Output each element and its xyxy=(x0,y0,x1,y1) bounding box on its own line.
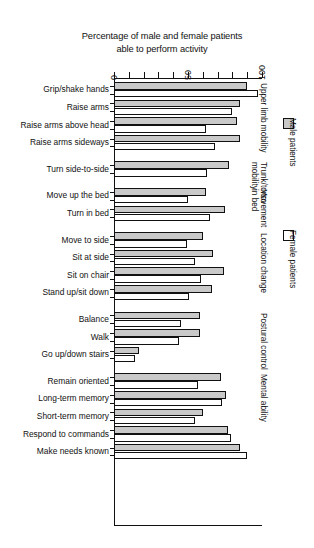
category-label: Balance xyxy=(0,315,109,324)
group-label: Location change xyxy=(259,233,268,303)
bar xyxy=(114,275,201,283)
category-label: Long-term memory xyxy=(0,394,109,403)
bar xyxy=(114,320,181,328)
group-label: Postural control xyxy=(259,313,268,366)
bar xyxy=(114,312,200,320)
bar xyxy=(114,214,210,222)
category-label: Raise arms above head xyxy=(0,121,109,130)
bar xyxy=(114,347,139,355)
bar xyxy=(114,293,189,301)
category-label: Go up/down stairs xyxy=(0,350,109,359)
category-label: Raise arms xyxy=(0,103,109,112)
bar xyxy=(114,108,232,116)
bar xyxy=(114,117,237,125)
category-label: Grip/shake hands xyxy=(0,85,109,94)
group-label: mobility xyxy=(249,162,258,180)
plot-area: 050100 xyxy=(114,78,262,526)
x-tick-70 xyxy=(218,72,219,78)
bar xyxy=(114,82,247,90)
bar xyxy=(114,452,247,460)
x-tick-40 xyxy=(173,72,174,78)
x-tick-label-50: 50 xyxy=(183,70,193,80)
bar xyxy=(114,125,206,133)
bar xyxy=(114,232,203,240)
bar xyxy=(114,355,135,363)
x-tick-label-0: 0 xyxy=(109,75,119,80)
group-label: Upper limb mobility xyxy=(259,83,268,153)
bar xyxy=(114,169,207,177)
x-tick-30 xyxy=(158,72,159,78)
bar xyxy=(114,240,187,248)
group-label: Trunk/torso xyxy=(259,162,268,180)
bar xyxy=(114,250,213,258)
category-label: Move to side xyxy=(0,236,109,245)
category-label: Turn in bed xyxy=(0,209,109,218)
x-tick-90 xyxy=(247,72,248,78)
group-label: Movement xyxy=(259,189,268,224)
bar xyxy=(114,196,188,204)
chart-title-line-1: Percentage of male and female patients xyxy=(62,30,262,43)
category-label: Move up the bed xyxy=(0,191,109,200)
category-label: Sit on chair xyxy=(0,271,109,280)
category-label: Raise arms sideways xyxy=(0,138,109,147)
bar xyxy=(114,285,212,293)
legend-label: Female patients xyxy=(288,230,297,288)
bar xyxy=(114,258,195,266)
bar xyxy=(114,188,206,196)
bar xyxy=(114,381,198,389)
x-tick-10 xyxy=(129,72,130,78)
plot-bottom-line xyxy=(114,525,262,526)
bar xyxy=(114,90,258,98)
x-tick-80 xyxy=(232,72,233,78)
x-tick-label-100: 100 xyxy=(257,65,267,80)
category-label: Make needs known xyxy=(0,447,109,456)
chart-title-line-2: able to perform activity xyxy=(62,43,262,56)
category-label: Walk xyxy=(0,333,109,342)
category-label: Respond to commands xyxy=(0,430,109,439)
bar xyxy=(114,143,215,151)
chart-title: Percentage of male and female patients a… xyxy=(62,30,262,55)
group-label: Mental ability xyxy=(259,374,268,462)
bar xyxy=(114,337,179,345)
legend-label: Male patients xyxy=(288,118,297,167)
category-label: Sit at side xyxy=(0,253,109,262)
bar xyxy=(114,417,195,425)
bar xyxy=(114,391,226,399)
group-label: in bed xyxy=(249,189,258,224)
bar xyxy=(114,399,222,407)
bar xyxy=(114,409,203,417)
bar xyxy=(114,161,229,169)
bar xyxy=(114,100,240,108)
bar xyxy=(114,373,221,381)
category-label: Short-term memory xyxy=(0,412,109,421)
x-tick-20 xyxy=(144,72,145,78)
legend: Male patientsFemale patients xyxy=(283,118,313,338)
bar xyxy=(114,329,200,337)
bar xyxy=(114,267,224,275)
category-label: Remain oriented xyxy=(0,377,109,386)
category-label: Turn side-to-side xyxy=(0,165,109,174)
bar xyxy=(114,426,228,434)
x-tick-60 xyxy=(203,72,204,78)
bar xyxy=(114,434,231,442)
category-label: Stand up/sit down xyxy=(0,288,109,297)
bar xyxy=(114,444,240,452)
bar xyxy=(114,206,225,214)
bar xyxy=(114,135,240,143)
chart-root: Percentage of male and female patients a… xyxy=(0,0,314,548)
